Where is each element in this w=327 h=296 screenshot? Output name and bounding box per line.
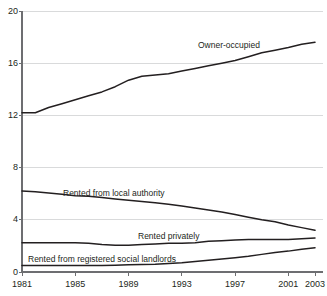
series-annotation-label: Owner-occupied [198, 41, 260, 50]
x-tick-label: 1981 [5, 280, 39, 289]
line-chart: 048121620 1981198519891993199720012003 O… [0, 0, 327, 296]
y-tick-label: 20 [0, 7, 18, 16]
x-tick-label: 1993 [165, 280, 199, 289]
series-annotation-label: Rented privately [138, 232, 199, 241]
series-line-owner-occupied [22, 42, 315, 112]
x-tick-label: 1997 [218, 280, 252, 289]
y-tick-label: 4 [0, 215, 18, 224]
series-annotation-label: Rented from local authority [63, 189, 165, 198]
y-tick-label: 8 [0, 163, 18, 172]
y-tick-label: 0 [0, 268, 18, 277]
series-annotation-label: Rented from registered social landlords [28, 255, 176, 264]
chart-canvas [0, 0, 327, 296]
x-tick-label: 1985 [58, 280, 92, 289]
x-tick-label: 2003 [298, 280, 327, 289]
y-tick-label: 16 [0, 59, 18, 68]
x-tick-label: 1989 [112, 280, 146, 289]
y-tick-label: 12 [0, 111, 18, 120]
